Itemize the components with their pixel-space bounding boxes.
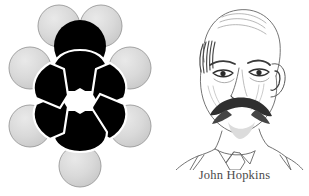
portrait-caption: John Hopkins (160, 168, 309, 183)
molecule-figure (0, 0, 160, 196)
left-pupil (220, 71, 225, 76)
portrait-background (160, 0, 309, 170)
right-pupil (256, 70, 261, 75)
figure-page: John Hopkins (0, 0, 309, 196)
portrait-panel: John Hopkins (160, 0, 309, 196)
portrait-figure (160, 0, 309, 170)
portrait-svg (160, 0, 309, 170)
molecule-panel (0, 0, 160, 196)
molecule-svg (0, 0, 160, 196)
